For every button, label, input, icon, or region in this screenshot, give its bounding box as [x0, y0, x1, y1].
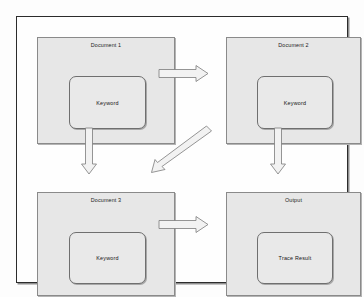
- keyword-box-document-3-label: Keyword: [96, 255, 118, 261]
- trace-result-box[interactable]: Trace Result: [257, 232, 333, 284]
- keyword-box-document-1-label: Keyword: [96, 100, 118, 106]
- panel-output-title: Output: [227, 197, 360, 204]
- keyword-box-document-1[interactable]: Keyword: [69, 76, 146, 129]
- panel-output[interactable]: Output Trace Result: [226, 192, 361, 296]
- panel-document-3-title: Document 3: [38, 197, 174, 204]
- panel-document-2-title: Document 2: [227, 42, 360, 49]
- panel-document-2[interactable]: Document 2 Keyword: [226, 37, 361, 144]
- panel-document-3[interactable]: Document 3 Keyword: [37, 192, 175, 296]
- diagram-outer-frame: Document 1 Keyword Document 2 Keyword Do…: [16, 16, 348, 283]
- panel-document-1[interactable]: Document 1 Keyword: [37, 37, 175, 144]
- panel-document-1-title: Document 1: [38, 42, 174, 49]
- diagram-canvas: Document 1 Keyword Document 2 Keyword Do…: [0, 0, 364, 297]
- trace-result-box-label: Trace Result: [279, 255, 312, 261]
- keyword-box-document-2-label: Keyword: [284, 100, 306, 106]
- keyword-box-document-2[interactable]: Keyword: [257, 76, 333, 129]
- keyword-box-document-3[interactable]: Keyword: [69, 232, 146, 284]
